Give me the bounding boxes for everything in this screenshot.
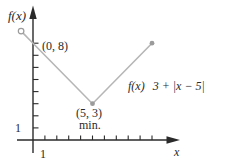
x-axis-label: x	[173, 145, 180, 159]
function-curve	[18, 28, 154, 106]
labels-layer: f(x) (0, 8) f(x)3 + |x − 5| (5, 3) min. …	[8, 8, 205, 161]
x-unit-tick-label: 1	[40, 147, 46, 161]
formula-label: f(x)3 + |x − 5|	[128, 79, 205, 93]
x-axis-arrow-icon	[167, 136, 181, 143]
plot-canvas: f(x) (0, 8) f(x)3 + |x − 5| (5, 3) min. …	[0, 0, 226, 162]
y-unit-tick-label: 1	[15, 121, 21, 135]
function-graph-figure: f(x) (0, 8) f(x)3 + |x − 5| (5, 3) min. …	[0, 0, 226, 162]
point-label-y-intercept: (0, 8)	[42, 39, 68, 53]
min-caption: min.	[79, 118, 101, 132]
y-axis-label: f(x)	[8, 8, 26, 23]
formula-fx: f(x)	[128, 79, 145, 93]
point-marker	[150, 41, 155, 46]
open-endpoint-marker	[18, 28, 24, 34]
formula-expression: 3 + |x − 5|	[152, 79, 205, 93]
y-axis-arrow-icon	[29, 6, 36, 20]
